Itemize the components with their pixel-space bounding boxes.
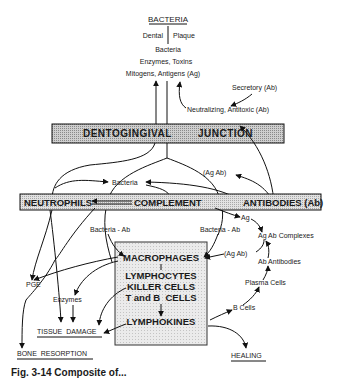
lymphocytes-label: LYMPHOCYTES — [125, 270, 196, 281]
macrophages-to-enzymes — [75, 261, 118, 295]
healing-label: HEALING — [231, 352, 262, 359]
bacteria-mid-label: Bacteria — [112, 179, 138, 186]
enzymes-toxins-label: Enzymes, Toxins — [140, 58, 193, 66]
agab-mid-label: (Ag Ab) — [224, 250, 247, 258]
arrow-secretory — [231, 94, 252, 106]
lymphokines-to-bcells — [210, 310, 232, 320]
antibodies-to-complexes — [266, 241, 269, 258]
killer-cells-label: KILLER CELLS — [127, 281, 195, 292]
tissue-damage-label: TISSUE DAMAGE — [37, 328, 97, 335]
lymphokines-to-healing — [208, 326, 246, 348]
bcells-to-plasma — [243, 287, 259, 305]
arrow-to-antigens — [179, 82, 186, 108]
complement-to-bone — [22, 208, 95, 348]
neutrophils-label: NEUTROPHILS — [24, 197, 92, 208]
pathogenesis-diagram: BACTERIA Dental Plaque Bacteria Enzymes,… — [0, 0, 341, 379]
antibodies-label: ANTIBODIES (Ab) — [243, 197, 323, 208]
plaque-label: Plaque — [173, 32, 195, 40]
plasma-cells-label: Plasma Cells — [245, 279, 286, 286]
neutrophils-to-bacteria — [55, 180, 108, 188]
agab-to-macrophages — [205, 254, 224, 258]
complexes-to-agab-line — [256, 240, 264, 252]
enzymes-label: Enzymes — [53, 296, 82, 304]
b-cells-label: B Cells — [233, 304, 256, 311]
t-b-cells-label: T and B CELLS — [125, 292, 196, 303]
bacteria-title: BACTERIA — [148, 15, 189, 24]
neutralizing-label: Neutralizing, Antitoxic (Ab) — [187, 106, 269, 114]
ab-antibodies-label: Ab Antibodies — [258, 258, 301, 265]
ag-label: Ag — [241, 214, 250, 222]
agab-top-label: (Ag Ab) — [203, 169, 226, 177]
ag-to-complexes — [251, 219, 262, 232]
secretory-label: Secretory (Ab) — [232, 84, 277, 92]
macrophages-label: MACROPHAGES — [123, 252, 199, 263]
plasma-to-antibodies — [263, 266, 268, 280]
dental-label: Dental — [143, 32, 164, 39]
agab-complexes-label: Ag Ab Complexes — [258, 232, 314, 240]
dentogingival-junction-label: DENTOGINGIVAL JUNCTION — [83, 128, 253, 139]
macrophages-to-pge — [34, 257, 118, 280]
figure-caption: Fig. 3-14 Composite of... — [11, 367, 127, 378]
bone-resorption-label: BONE RESORPTION — [17, 350, 87, 357]
junction-to-neutrophils — [52, 143, 155, 200]
bacteria-ab-left-label: Bacteria - Ab — [90, 226, 130, 233]
bacteria-sub-label: Bacteria — [155, 46, 181, 53]
bacteria-ab-right-label: Bacteria - Ab — [200, 226, 240, 233]
complement-label: COMPLEMENT — [134, 197, 202, 208]
neutrophils-to-pge — [32, 210, 52, 280]
mitogens-antigens-label: Mitogens, Antigens (Ag) — [126, 70, 200, 78]
lymphokines-label: LYMPHOKINES — [127, 316, 196, 327]
